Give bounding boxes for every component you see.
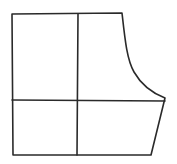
pattern-outline	[12, 13, 165, 155]
horizontal-divider-line	[12, 100, 165, 101]
vertical-divider-line	[77, 14, 78, 155]
pattern-diagram	[0, 0, 177, 164]
